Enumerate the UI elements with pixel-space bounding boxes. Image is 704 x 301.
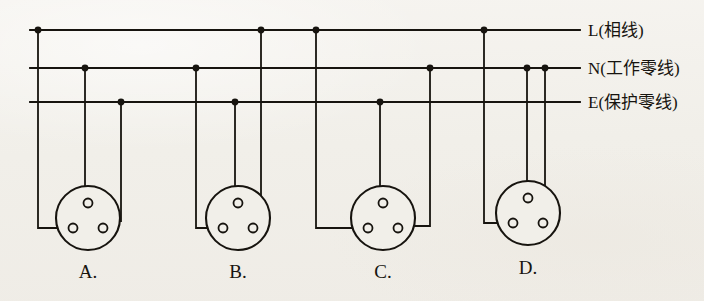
socket-terminal-bottom-right: [99, 224, 108, 233]
socket-option-D: [484, 30, 560, 245]
socket-terminal-bottom-right: [249, 224, 258, 233]
bus-line-layer: [30, 30, 580, 102]
junction-dot: [82, 65, 89, 72]
socket-body-circle: [56, 186, 120, 250]
junction-dot-layer: [35, 27, 549, 106]
socket-terminal-bottom-right: [539, 219, 548, 228]
junction-dot: [35, 27, 42, 34]
junction-dot: [313, 27, 320, 34]
junction-dot: [377, 99, 384, 106]
socket-terminal-bottom-left: [509, 219, 518, 228]
junction-dot: [258, 27, 265, 34]
socket-terminal-bottom-left: [364, 224, 373, 233]
junction-dot: [118, 99, 125, 106]
socket-option-C: [316, 30, 430, 250]
socket-body-circle: [351, 186, 415, 250]
socket-terminal-top: [379, 199, 388, 208]
junction-dot: [193, 65, 200, 72]
socket-terminal-top: [234, 199, 243, 208]
junction-dot: [427, 65, 434, 72]
option-label-B: B.: [229, 261, 246, 282]
bus-label-E: E(保护零线): [588, 93, 678, 112]
socket-terminal-bottom-left: [69, 224, 78, 233]
junction-dot: [524, 65, 531, 72]
bus-label-N: N(工作零线): [588, 59, 680, 78]
socket-option-A: [38, 30, 121, 250]
socket-terminal-top: [84, 199, 93, 208]
junction-dot: [232, 99, 239, 106]
option-label-C: C.: [374, 261, 391, 282]
socket-body-circle: [206, 186, 270, 250]
junction-dot: [542, 65, 549, 72]
option-label-A: A.: [79, 261, 97, 282]
socket-terminal-bottom-left: [219, 224, 228, 233]
junction-dot: [481, 27, 488, 34]
socket-terminal-top: [524, 194, 533, 203]
option-label-D: D.: [519, 257, 537, 278]
wiring-diagram-figure: L(相线)N(工作零线)E(保护零线)A.B.C.D.: [0, 0, 704, 301]
bus-label-L: L(相线): [588, 21, 644, 40]
socket-terminal-bottom-right: [394, 224, 403, 233]
socket-option-B: [196, 30, 270, 250]
socket-symbol-layer: [38, 30, 560, 250]
socket-body-circle: [496, 181, 560, 245]
